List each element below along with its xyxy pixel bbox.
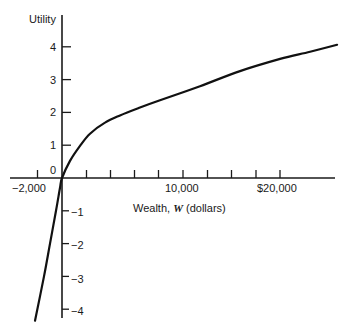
x-tick-label-neg2000: −2,000 <box>12 182 46 194</box>
x-tick-label-20000: $20,000 <box>257 182 297 194</box>
y-tick-label-2: 2 <box>50 106 56 118</box>
y-tick-label-4: 4 <box>50 41 56 53</box>
x-axis-label-variable: W <box>173 202 183 214</box>
y-tick-label-1: 1 <box>50 139 56 151</box>
x-axis-label-suffix: (dollars) <box>183 202 226 214</box>
y-tick-label-neg1: −1 <box>71 206 84 218</box>
y-tick-label-0: 0 <box>50 164 56 176</box>
x-tick-label-10000: 10,000 <box>165 182 199 194</box>
x-axis-label: Wealth, W (dollars) <box>133 202 226 214</box>
y-tick-label-neg4: −4 <box>71 305 84 317</box>
y-tick-label-neg3: −3 <box>71 273 84 285</box>
y-tick-label-neg2: −2 <box>71 239 84 251</box>
y-axis-label: Utility <box>29 13 56 25</box>
x-axis-label-prefix: Wealth, <box>133 202 173 214</box>
y-tick-label-3: 3 <box>50 74 56 86</box>
x-ticks <box>38 170 281 178</box>
